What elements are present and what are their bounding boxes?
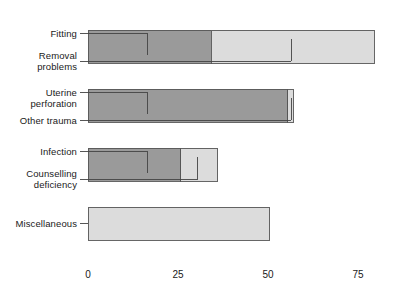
x-tick-label-50: 50 bbox=[253, 269, 283, 280]
x-tick-label-75: 75 bbox=[343, 269, 373, 280]
category-label-1: Fitting bbox=[0, 28, 77, 39]
x-tick-label-0: 0 bbox=[73, 269, 103, 280]
bar-segment-1-dark bbox=[88, 30, 211, 63]
category-label-5: Infection bbox=[0, 146, 77, 157]
bar-segment-2-dark bbox=[88, 89, 288, 122]
category-label-3: Uterine perforation bbox=[0, 87, 77, 109]
category-label-6: Counselling deficiency bbox=[0, 168, 77, 190]
bar-group-1 bbox=[88, 30, 374, 63]
bar-segment-3-dark bbox=[88, 148, 181, 181]
category-label-4: Other trauma bbox=[0, 115, 77, 126]
bar-group-4 bbox=[88, 207, 270, 240]
bar-group-2 bbox=[88, 89, 293, 122]
x-tick-label-25: 25 bbox=[163, 269, 193, 280]
category-label-2: Removal problems bbox=[0, 50, 77, 72]
bar-segment-1-light bbox=[211, 30, 374, 63]
category-label-7: Miscellaneous bbox=[0, 218, 77, 229]
bar-segment-4-light bbox=[88, 207, 270, 240]
bar-segment-3-light bbox=[181, 148, 218, 181]
bar-chart: FittingRemoval problemsUterine perforati… bbox=[0, 0, 405, 295]
bar-segment-2-light bbox=[288, 89, 293, 122]
